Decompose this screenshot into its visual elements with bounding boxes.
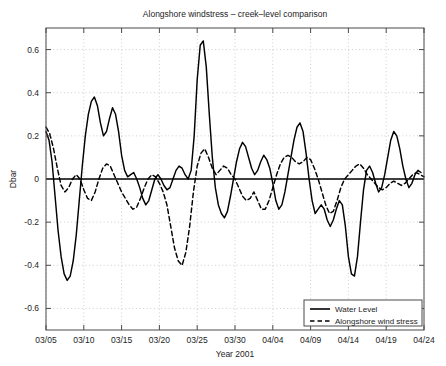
y-axis-label: Dbar (8, 170, 18, 189)
y-tick-label-3: 0 (34, 174, 39, 184)
legend-label-1: Alongshore wind stress (335, 317, 418, 326)
y-tick-label-1: -0.4 (24, 260, 39, 270)
x-tick-label-9: 04/19 (376, 335, 398, 345)
x-tick-label-8: 04/14 (338, 335, 360, 345)
y-tick-label-5: 0.4 (27, 88, 39, 98)
y-tick-label-4: 0.2 (27, 131, 39, 141)
x-tick-label-1: 03/10 (73, 335, 95, 345)
legend-label-0: Water Level (335, 305, 378, 314)
chart-figure: Alongshore windstress – creek–level comp… (0, 0, 446, 366)
x-tick-label-3: 03/20 (149, 335, 171, 345)
x-axis-label: Year 2001 (216, 349, 255, 359)
x-tick-label-7: 04/09 (300, 335, 322, 345)
y-tick-label-0: -0.6 (24, 303, 39, 313)
y-tick-label-6: 0.6 (27, 45, 39, 55)
x-tick-label-10: 04/24 (413, 335, 435, 345)
x-tick-label-4: 03/25 (187, 335, 209, 345)
x-tick-label-0: 03/05 (35, 335, 57, 345)
x-tick-label-2: 03/15 (111, 335, 133, 345)
x-tick-label-6: 04/04 (262, 335, 284, 345)
y-tick-label-2: -0.2 (24, 217, 39, 227)
chart-title: Alongshore windstress – creek–level comp… (143, 9, 328, 19)
x-tick-label-5: 03/30 (224, 335, 246, 345)
alongshore-windstress-chart: Alongshore windstress – creek–level comp… (0, 0, 446, 366)
